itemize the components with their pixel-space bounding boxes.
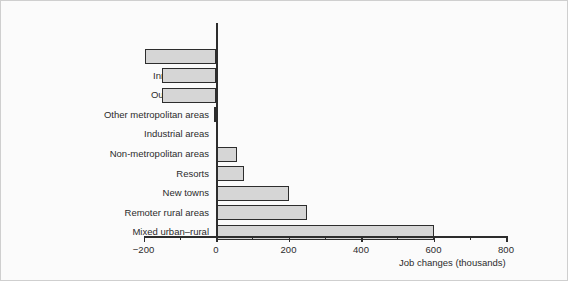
category-label: Other metropolitan areas xyxy=(39,109,209,120)
value-axis-tick-label: 400 xyxy=(353,244,369,255)
value-axis-tick xyxy=(216,236,218,242)
value-axis-tick xyxy=(506,236,508,242)
category-axis-labels: Principal citiesInner LondonOuter London… xyxy=(1,1,209,281)
value-axis-tick-label: 200 xyxy=(281,244,297,255)
value-axis-tick xyxy=(361,236,363,242)
category-label: Remoter rural areas xyxy=(39,207,209,218)
category-label: New towns xyxy=(39,187,209,198)
value-axis-tick-label: 0 xyxy=(213,244,218,255)
bar xyxy=(216,205,307,220)
value-axis-tick-label: 600 xyxy=(426,244,442,255)
value-axis-minor-tick xyxy=(252,236,253,240)
bar-chart-plot-area: Principal citiesInner LondonOuter London… xyxy=(1,1,568,281)
bar xyxy=(216,186,289,201)
bar xyxy=(145,49,216,64)
bar xyxy=(216,147,237,162)
bar xyxy=(162,68,216,83)
value-axis-title: Job changes (thousands) xyxy=(399,257,506,268)
value-axis-minor-tick xyxy=(180,236,181,240)
value-axis-tick xyxy=(144,236,146,242)
value-axis-tick xyxy=(434,236,436,242)
zero-axis-line xyxy=(216,23,218,236)
value-axis-minor-tick xyxy=(325,236,326,240)
value-axis-tick xyxy=(289,236,291,242)
bar xyxy=(162,88,216,103)
category-label: Industrial areas xyxy=(39,128,209,139)
bar xyxy=(216,166,244,181)
value-axis-tick-label: −200 xyxy=(133,244,154,255)
category-label: Resorts xyxy=(39,168,209,179)
chart-figure: Principal citiesInner LondonOuter London… xyxy=(0,0,568,281)
category-label: Non-metropolitan areas xyxy=(39,148,209,159)
value-axis-minor-tick xyxy=(397,236,398,240)
value-axis-tick-label: 800 xyxy=(498,244,514,255)
value-axis-minor-tick xyxy=(470,236,471,240)
